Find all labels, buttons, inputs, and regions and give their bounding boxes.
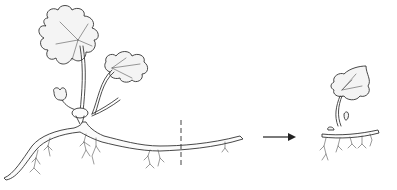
rootlets	[30, 134, 228, 174]
new-plantlet	[320, 66, 379, 160]
large-leaf	[39, 6, 98, 65]
horizontal-root	[4, 122, 243, 180]
illustration-canvas	[0, 0, 397, 190]
arrow-icon	[263, 133, 296, 141]
medium-leaf	[105, 52, 148, 83]
bud-leaf	[54, 88, 67, 101]
root-cutting-illustration	[0, 0, 397, 190]
plantlet-root	[322, 130, 379, 138]
plantlet-leaf	[331, 66, 369, 100]
parent-plant	[4, 6, 243, 181]
crown	[72, 108, 88, 118]
